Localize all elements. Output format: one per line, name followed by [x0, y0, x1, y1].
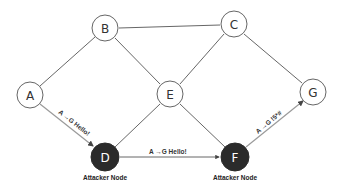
node-d: D: [91, 143, 119, 171]
edge-c-g: [244, 34, 302, 83]
message-d-f: A →G Hello!: [149, 148, 187, 155]
edge-e-f: [180, 104, 225, 147]
network-diagram: A →G Hello! A →G Hello! A →G !5*# A B C …: [0, 0, 344, 192]
node-d-label: D: [100, 151, 109, 165]
edge-b-c: [119, 25, 220, 28]
node-a: A: [17, 82, 43, 108]
edge-a-d: [40, 104, 93, 146]
edge-b-e: [115, 38, 160, 84]
message-f-g: A →G !5*#: [254, 109, 283, 135]
edge-c-e: [180, 34, 224, 84]
node-b: B: [92, 15, 118, 41]
node-f-caption: Attacker Node: [213, 174, 257, 181]
node-f: F: [221, 143, 249, 171]
node-c-label: C: [230, 18, 238, 32]
node-e: E: [157, 81, 183, 107]
edge-f-g: [246, 101, 303, 147]
node-e-label: E: [166, 88, 174, 102]
node-f-label: F: [232, 151, 239, 165]
node-d-caption: Attacker Node: [83, 174, 127, 181]
message-a-d: A →G Hello!: [57, 108, 91, 137]
node-g: G: [300, 79, 326, 105]
node-a-label: A: [26, 89, 35, 103]
edge-e-d: [115, 104, 160, 147]
edge-a-b: [40, 37, 95, 86]
node-c: C: [221, 11, 247, 37]
node-b-label: B: [101, 22, 109, 36]
node-g-label: G: [308, 86, 317, 100]
